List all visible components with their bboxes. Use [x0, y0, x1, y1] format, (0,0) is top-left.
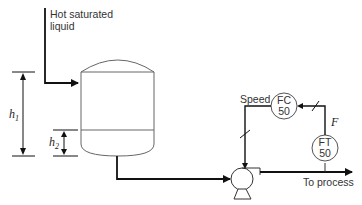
h2-label: h2 — [49, 135, 59, 151]
process-diagram: Hot saturated liquid h1 h2 To process — [0, 0, 362, 205]
inlet-label-line1: Hot saturated — [50, 8, 113, 20]
inlet-label-line2: liquid — [50, 20, 75, 32]
speed-label: Speed — [240, 93, 271, 105]
suction-line — [117, 156, 230, 179]
outlet-label: To process — [303, 176, 354, 188]
flow-transmitter: FT 50 — [312, 135, 338, 172]
flow-controller: FC 50 — [271, 93, 297, 119]
fc-number: 50 — [278, 105, 290, 117]
ft-number: 50 — [319, 147, 331, 159]
flow-label: F — [330, 115, 339, 129]
pump — [231, 168, 260, 199]
vessel — [81, 60, 154, 156]
h1-label: h1 — [9, 107, 19, 123]
fc-to-pump-signal — [240, 106, 271, 166]
ft-to-fc-signal — [300, 101, 325, 135]
